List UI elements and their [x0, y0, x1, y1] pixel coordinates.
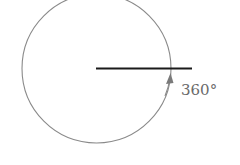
- rotation-circle: [22, 0, 171, 143]
- arrowhead-icon: [166, 73, 174, 84]
- angle-label: 360°: [181, 81, 217, 99]
- angle-diagram: 360°: [0, 0, 240, 165]
